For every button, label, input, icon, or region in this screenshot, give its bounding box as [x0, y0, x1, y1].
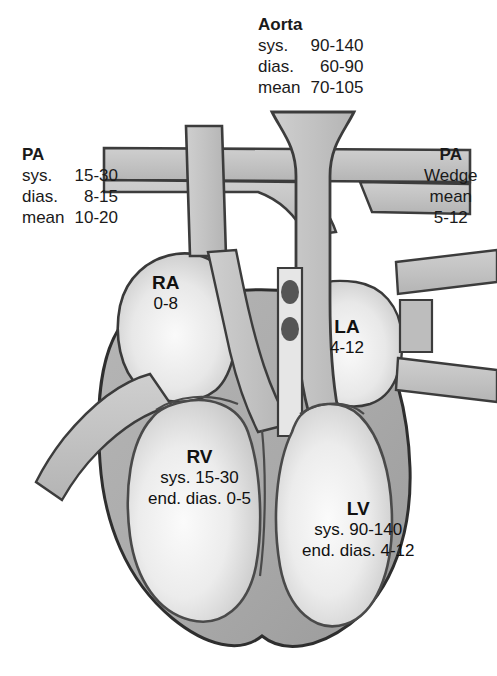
aorta-sys-value: 90-140: [311, 35, 364, 56]
pulmonary-artery-trunk: [104, 148, 470, 182]
aorta-dias-label: dias.: [258, 56, 311, 77]
pa-dias-label: dias.: [22, 186, 75, 207]
pulmonary-vein-lower: [396, 358, 497, 402]
table-row: mean 70-105: [258, 77, 363, 98]
la-name: LA: [330, 316, 364, 337]
aorta-mean-value: 70-105: [311, 77, 364, 98]
callout-pa-title: PA: [22, 144, 118, 165]
callout-pulmonary-artery: PA sys. 15-30 dias. 8-15 mean 10-20: [22, 144, 118, 228]
rv-name: RV: [148, 446, 251, 467]
rv-value-line2: end. dias. 0-5: [148, 488, 251, 509]
label-right-atrium: RA 0-8: [152, 272, 179, 314]
callout-aorta-title: Aorta: [258, 14, 363, 35]
ra-values: 0-8: [152, 293, 179, 314]
table-row: sys. 90-140: [258, 35, 363, 56]
la-value-line1: 4-12: [330, 337, 364, 358]
superior-vena-cava: [186, 126, 226, 256]
la-values: 4-12: [330, 337, 364, 358]
callout-pa-table: sys. 15-30 dias. 8-15 mean 10-20: [22, 165, 118, 228]
ra-value-line1: 0-8: [152, 293, 179, 314]
la-appendage: [400, 300, 432, 352]
pa-sys-label: sys.: [22, 165, 75, 186]
lv-value-line1: sys. 90-140: [302, 519, 414, 540]
pulmonary-vein-upper: [396, 250, 497, 294]
rv-values: sys. 15-30 end. dias. 0-5: [148, 467, 251, 509]
heart-pressure-diagram: Aorta sys. 90-140 dias. 60-90 mean 70-10…: [0, 0, 497, 676]
table-row: mean 10-20: [22, 207, 118, 228]
pulmonary-veins: [396, 250, 497, 402]
lv-value-line2: end. dias. 4-12: [302, 540, 414, 561]
pa-mean-value: 10-20: [75, 207, 118, 228]
pulmonary-artery: [104, 148, 470, 236]
pa-wedge-line2: Wedge: [424, 165, 478, 186]
table-row: sys. 15-30: [22, 165, 118, 186]
pa-wedge-line4: 5-12: [424, 207, 478, 228]
right-ventricle-chamber: [128, 400, 260, 622]
valve-nodule-upper: [281, 280, 299, 304]
septal-vessels: [278, 268, 302, 436]
aorta-mean-label: mean: [258, 77, 311, 98]
pa-wedge-line1: PA: [424, 144, 478, 165]
pa-dias-value: 8-15: [75, 186, 118, 207]
table-row: dias. 8-15: [22, 186, 118, 207]
table-row: dias. 60-90: [258, 56, 363, 77]
callout-pa-wedge: PA Wedge mean 5-12: [424, 144, 478, 228]
pa-mean-label: mean: [22, 207, 75, 228]
pa-sys-value: 15-30: [75, 165, 118, 186]
rv-value-line1: sys. 15-30: [148, 467, 251, 488]
heart-anatomy-illustration: [0, 0, 497, 676]
aorta-dias-value: 60-90: [311, 56, 364, 77]
callout-aorta-table: sys. 90-140 dias. 60-90 mean 70-105: [258, 35, 363, 98]
valve-nodule-lower: [281, 317, 299, 341]
svc-vessel: [186, 126, 226, 256]
label-right-ventricle: RV sys. 15-30 end. dias. 0-5: [148, 446, 251, 509]
label-left-ventricle: LV sys. 90-140 end. dias. 4-12: [302, 498, 414, 561]
lv-values: sys. 90-140 end. dias. 4-12: [302, 519, 414, 561]
aorta-sys-label: sys.: [258, 35, 311, 56]
lv-name: LV: [302, 498, 414, 519]
callout-aorta: Aorta sys. 90-140 dias. 60-90 mean 70-10…: [258, 14, 363, 98]
pa-wedge-line3: mean: [424, 186, 478, 207]
ra-name: RA: [152, 272, 179, 293]
label-left-atrium: LA 4-12: [330, 316, 364, 358]
